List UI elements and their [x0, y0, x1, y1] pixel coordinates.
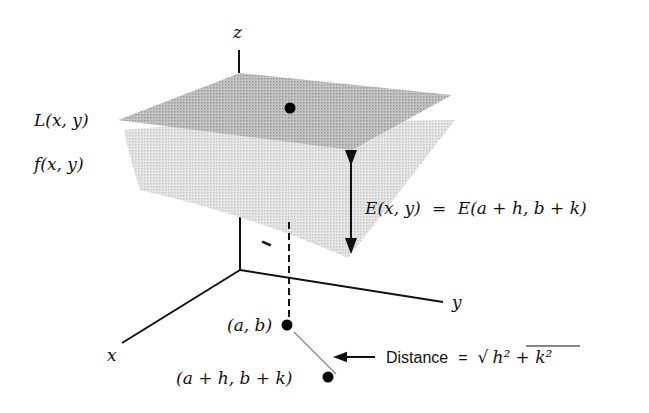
x-axis [122, 270, 240, 343]
distance-radical: √ [478, 347, 489, 367]
z-axis-label: z [232, 22, 243, 42]
x-axis-label: x [107, 345, 117, 365]
y-axis [240, 270, 443, 302]
shifted-point-dot [323, 372, 334, 383]
distance-equals: = [458, 349, 467, 366]
distance-label: Distance = √ h² + k² [386, 347, 553, 367]
base-point-dot [282, 320, 293, 331]
shifted-point-label: (a + h, b + k) [176, 368, 292, 388]
stray-mark [263, 242, 270, 245]
error-lhs: E(x, y) [364, 198, 421, 218]
tangent-point-dot [285, 103, 296, 114]
error-equals: = [432, 198, 446, 218]
linear-approximation-diagram: z y x L(x, y) f(x, y) E(x, y) = E(a + h,… [0, 0, 649, 413]
base-point-label: (a, b) [227, 315, 272, 335]
distance-segment [294, 332, 336, 374]
tangent-plane-label: L(x, y) [33, 110, 89, 130]
distance-formula: h² + k² [492, 347, 552, 367]
function-surface-label: f(x, y) [32, 154, 84, 174]
y-axis-label: y [451, 292, 462, 312]
error-label: E(x, y) = E(a + h, b + k) [364, 198, 587, 218]
distance-word: Distance [386, 349, 448, 366]
error-rhs: E(a + h, b + k) [457, 198, 587, 218]
